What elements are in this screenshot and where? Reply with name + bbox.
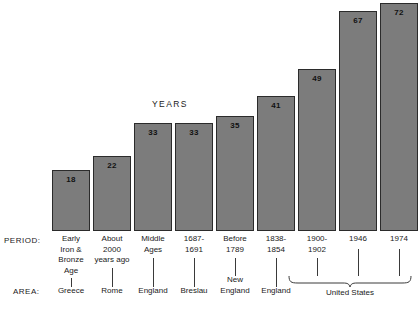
bar-chart: 18 22 33 33 35 41 49 67 72 YEARS PERIOD:… [0,0,419,311]
bar-7[interactable]: 49 [298,69,336,231]
period-label-9: 1974 [376,234,419,245]
chart-title-years: YEARS [152,99,188,109]
bar-2[interactable]: 22 [93,156,131,231]
area-label-1: Greece [48,286,94,297]
bar-1[interactable]: 18 [52,170,90,231]
connector-tick-4 [194,258,195,287]
area-line: New [210,275,260,286]
period-line: 1946 [335,234,381,245]
period-row-label: PERIOD: [4,236,40,245]
period-label-8: 1946 [335,234,381,245]
period-label-4: 1687- 1691 [171,234,217,255]
bar-6[interactable]: 41 [257,96,295,231]
period-line: Age [48,266,94,277]
bar-value-7: 49 [299,74,335,83]
bar-value-2: 22 [94,161,130,170]
period-line: 1691 [171,245,217,256]
bar-value-5: 35 [217,121,253,130]
period-line: 1838- [253,234,299,245]
bar-value-9: 72 [381,8,417,17]
bar-8[interactable]: 67 [339,11,377,231]
period-line: 1902 [294,245,340,256]
connector-tick-9 [399,249,400,276]
period-line: 1900- [294,234,340,245]
area-label-united-states: United States [312,288,388,299]
bar-value-4: 33 [176,128,212,137]
connector-tick-3 [153,258,154,287]
period-line: 1687- [171,234,217,245]
period-line: Middle [130,234,176,245]
plot-area: 18 22 33 33 35 41 49 67 72 YEARS [0,0,419,231]
area-row-label: AREA: [13,287,40,296]
area-line: Greece [48,286,94,297]
connector-tick-2 [112,268,113,287]
bar-5[interactable]: 35 [216,116,254,231]
connector-tick-5 [235,258,236,276]
bar-value-3: 33 [135,128,171,137]
area-line: United States [312,288,388,299]
period-line: 1854 [253,245,299,256]
connector-tick-8 [358,249,359,276]
period-line: Ages [130,245,176,256]
connector-tick-7 [317,258,318,276]
period-line: Before [212,234,258,245]
bar-value-6: 41 [258,101,294,110]
united-states-brace [288,276,412,288]
period-label-7: 1900- 1902 [294,234,340,255]
period-line: 1789 [212,245,258,256]
period-label-3: Middle Ages [130,234,176,255]
period-label-6: 1838- 1854 [253,234,299,255]
bar-4[interactable]: 33 [175,123,213,231]
bar-3[interactable]: 33 [134,123,172,231]
period-line: years ago [87,255,137,266]
period-line: 1974 [376,234,419,245]
bar-value-8: 67 [340,16,376,25]
bar-value-1: 18 [53,175,89,184]
bar-9[interactable]: 72 [380,3,418,231]
connector-tick-6 [276,258,277,287]
period-label-5: Before 1789 [212,234,258,255]
